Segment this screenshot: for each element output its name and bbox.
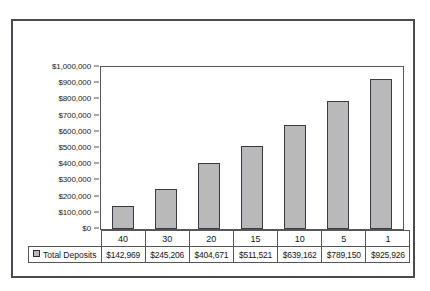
bar-slot	[317, 67, 360, 229]
category-label-cell: 1	[366, 231, 410, 247]
chart-data-table: 403020151051 Total Deposits $142,969$245…	[28, 230, 410, 263]
series-value-row: Total Deposits $142,969$245,206$404,671$…	[29, 247, 410, 263]
bar[interactable]	[284, 125, 306, 229]
series-value-cell: $511,521	[233, 247, 277, 263]
y-axis: $1,000,000$900,000$800,000$700,000$600,0…	[13, 60, 99, 236]
series-value-cell: $142,969	[101, 247, 145, 263]
category-label-cell: 20	[189, 231, 233, 247]
y-axis-tick-mark	[94, 228, 99, 229]
y-axis-tick-label: $300,000	[58, 175, 91, 184]
bar[interactable]	[241, 146, 263, 229]
series-value-cell: $789,150	[322, 247, 366, 263]
category-label-cell: 40	[101, 231, 145, 247]
category-label-cell: 10	[278, 231, 322, 247]
y-axis-tick-label: $200,000	[58, 191, 91, 200]
y-axis-tick-label: $600,000	[58, 126, 91, 135]
y-axis-tick-mark	[94, 82, 99, 83]
legend-cell: Total Deposits	[29, 247, 102, 263]
y-axis-tick-label: $700,000	[58, 110, 91, 119]
series-value-cell: $639,162	[278, 247, 322, 263]
bar[interactable]	[370, 79, 392, 229]
category-label-cell: 5	[322, 231, 366, 247]
y-axis-tick-label: $500,000	[58, 143, 91, 152]
bar-slot	[187, 67, 230, 229]
y-axis-tick-label: $900,000	[58, 78, 91, 87]
y-axis-tick-label: $100,000	[58, 207, 91, 216]
bar[interactable]	[198, 163, 220, 229]
category-row-spacer	[29, 231, 102, 247]
category-row: 403020151051	[29, 231, 410, 247]
bar-slot	[360, 67, 403, 229]
y-axis-tick-mark	[94, 114, 99, 115]
y-axis-tick-mark	[94, 179, 99, 180]
y-axis-tick-label: $400,000	[58, 159, 91, 168]
series-color-swatch-icon	[33, 250, 40, 257]
bar-slot	[274, 67, 317, 229]
category-label-cell: 15	[233, 231, 277, 247]
y-axis-tick-label: $800,000	[58, 94, 91, 103]
y-axis-tick-mark	[94, 130, 99, 131]
y-axis-tick-mark	[94, 98, 99, 99]
bar-slot	[101, 67, 144, 229]
chart-frame: $1,000,000$900,000$800,000$700,000$600,0…	[11, 19, 415, 278]
series-value-cell: $925,926	[366, 247, 410, 263]
bar[interactable]	[327, 101, 349, 229]
plot-area	[100, 66, 404, 230]
bar-slot	[230, 67, 273, 229]
bar-slot	[144, 67, 187, 229]
y-axis-tick-mark	[94, 147, 99, 148]
series-value-cell: $245,206	[145, 247, 189, 263]
y-axis-tick-mark	[94, 211, 99, 212]
bar[interactable]	[155, 189, 177, 229]
y-axis-tick-mark	[94, 66, 99, 67]
y-axis-tick-label: $1,000,000	[52, 62, 91, 71]
bar[interactable]	[112, 206, 134, 229]
y-axis-tick-mark	[94, 195, 99, 196]
category-label-cell: 30	[145, 231, 189, 247]
series-name-label: Total Deposits	[43, 250, 96, 260]
y-axis-tick-mark	[94, 163, 99, 164]
series-value-cell: $404,671	[189, 247, 233, 263]
